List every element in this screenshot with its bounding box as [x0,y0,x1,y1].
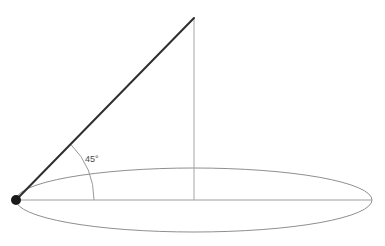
geometry-canvas: 45° [0,0,385,246]
slant-line [16,18,194,200]
cone-angle-diagram: 45° [0,0,385,246]
angle-label: 45° [85,154,99,164]
vertex-point-marker [11,195,21,205]
